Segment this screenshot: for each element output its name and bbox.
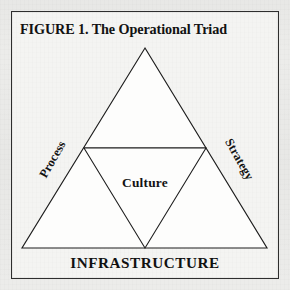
center-label-culture: Culture <box>0 175 290 191</box>
figure-root: FIGURE 1. The Operational Triad Process … <box>0 0 290 290</box>
base-label-infrastructure: INFRASTRUCTURE <box>0 254 290 272</box>
